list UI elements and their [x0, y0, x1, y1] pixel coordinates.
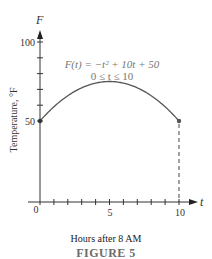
endpoint-start	[38, 119, 42, 123]
y-axis	[37, 30, 43, 205]
y-tick-label-50: 50	[25, 116, 35, 127]
x-tick-label-0: 0	[34, 204, 39, 215]
x-tick-label-5: 5	[108, 207, 113, 218]
x-tick-label-10: 10	[175, 207, 185, 218]
y-tick-label-100: 100	[20, 37, 35, 48]
x-axis-variable: t	[200, 195, 204, 209]
y-axis-title: Temperature, °F	[8, 87, 19, 152]
chart-figure: F t 100 50 0 5 10 Temperature, °F F(t) =…	[0, 0, 212, 259]
figure-caption: FIGURE 5	[0, 246, 212, 259]
y-axis-arrow-icon	[37, 30, 43, 39]
x-axis	[28, 199, 198, 205]
endpoint-end	[177, 119, 181, 123]
x-axis-arrow-icon	[189, 199, 198, 205]
x-axis-title: Hours after 8 AM	[0, 233, 212, 244]
domain-label: 0 ≤ t ≤ 10	[91, 70, 134, 82]
y-axis-variable: F	[35, 13, 44, 27]
function-curve	[40, 82, 179, 122]
